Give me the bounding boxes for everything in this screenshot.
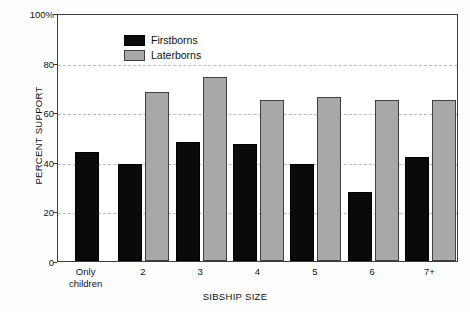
legend-item-firstborns: Firstborns bbox=[124, 34, 201, 46]
y-tick-label-60: 60 bbox=[6, 108, 54, 119]
legend-label-firstborns: Firstborns bbox=[151, 34, 198, 46]
y-tick-label-20: 20 bbox=[6, 207, 54, 218]
bar-firstborns-2 bbox=[118, 164, 142, 261]
bar-laterborns-2 bbox=[145, 92, 169, 261]
y-tick-mark-0 bbox=[53, 262, 57, 263]
y-tick-label-80: 80 bbox=[6, 58, 54, 69]
bar-firstborns-only-children bbox=[75, 152, 99, 261]
x-axis-title: SIBSHIP SIZE bbox=[0, 291, 470, 302]
bar-chart-figure: PERCENT SUPPORT 020406080100% Firstborns… bbox=[0, 0, 470, 312]
bar-firstborns-6 bbox=[348, 192, 372, 261]
bar-laterborns-4 bbox=[260, 100, 284, 261]
bar-firstborns-4 bbox=[233, 144, 257, 261]
bar-laterborns-5 bbox=[317, 97, 341, 261]
x-tick-label-7: 7+ bbox=[384, 266, 470, 278]
y-tick-label-40: 40 bbox=[6, 157, 54, 168]
bar-firstborns-3 bbox=[176, 142, 200, 261]
plot-area: Firstborns Laterborns bbox=[57, 14, 458, 262]
bar-firstborns-7 bbox=[405, 157, 429, 261]
y-tick-label-100%: 100% bbox=[6, 9, 54, 20]
chart-legend: Firstborns Laterborns bbox=[124, 34, 201, 61]
legend-label-laterborns: Laterborns bbox=[151, 49, 201, 61]
bar-firstborns-5 bbox=[290, 164, 314, 261]
bars-layer bbox=[58, 15, 457, 261]
legend-item-laterborns: Laterborns bbox=[124, 49, 201, 61]
bar-laterborns-6 bbox=[375, 100, 399, 261]
legend-swatch-firstborns-icon bbox=[124, 35, 145, 46]
bar-laterborns-7 bbox=[432, 100, 456, 261]
legend-swatch-laterborns-icon bbox=[124, 50, 145, 61]
bar-laterborns-3 bbox=[203, 77, 227, 261]
